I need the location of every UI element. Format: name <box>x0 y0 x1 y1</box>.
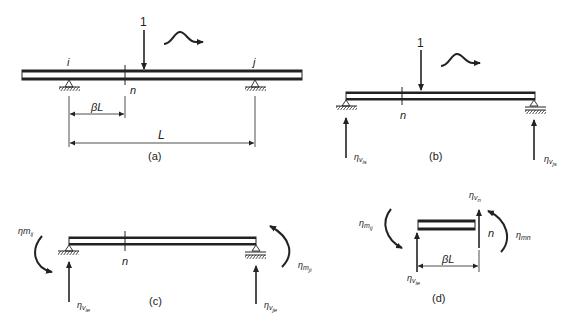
moving-load-direction-icon <box>441 54 480 66</box>
moment-left-label: ηmij <box>359 218 373 231</box>
moment-right-label: ηmn <box>516 230 531 241</box>
load-label: 1 <box>417 36 424 50</box>
reaction-left-label: ηvie <box>77 300 91 313</box>
load-label: 1 <box>140 15 147 29</box>
moment-left-icon <box>385 209 402 248</box>
beam <box>69 237 256 245</box>
pin-support-icon <box>245 80 266 91</box>
section-label: n <box>400 109 406 121</box>
roller-support-icon <box>525 100 546 114</box>
node-j-label: j <box>251 56 256 68</box>
shear-left-label: ηvie <box>407 273 421 286</box>
moving-load-direction-icon <box>164 32 203 44</box>
reaction-left-label: ηvis <box>354 152 367 165</box>
panel-d: ηvie ηvn n ηmij ηmn βL (d) <box>359 190 531 304</box>
pin-support-icon <box>336 100 357 110</box>
pin-support-icon <box>59 80 80 91</box>
beam-segment <box>418 220 475 230</box>
caption-a: (a) <box>148 150 161 162</box>
reaction-right-label: ηvjs <box>544 154 557 167</box>
reaction-right-label: ηvje <box>264 300 278 313</box>
moment-left-icon <box>35 236 52 272</box>
dim-span-label: L <box>158 128 165 142</box>
caption-d: (d) <box>432 292 445 304</box>
roller-support-icon <box>245 245 266 259</box>
pin-support-icon <box>58 245 79 255</box>
dim-beta-l-label: βL <box>441 253 454 265</box>
caption-b: (b) <box>429 150 442 162</box>
shear-right-label: ηvn <box>469 190 482 203</box>
beam <box>22 70 302 80</box>
panel-c: n ηmij ηmji ηvie ηvje (c) <box>18 226 312 313</box>
section-label: n <box>122 255 128 267</box>
panel-b: n 1 ηvis ηvjs (b) <box>336 36 557 167</box>
node-i-label: i <box>67 56 70 68</box>
section-label: n <box>130 84 136 96</box>
moment-left-label: ηmij <box>18 226 34 237</box>
structural-diagram: 1 i j n βL L (a) n <box>0 0 571 319</box>
caption-c: (c) <box>149 295 162 307</box>
moment-right-label: ηmji <box>298 260 312 273</box>
dim-beta-l-label: βL <box>90 101 103 113</box>
moment-right-icon <box>270 226 289 267</box>
panel-a: 1 i j n βL L (a) <box>22 15 302 162</box>
beam <box>346 92 535 100</box>
section-label: n <box>488 227 494 239</box>
